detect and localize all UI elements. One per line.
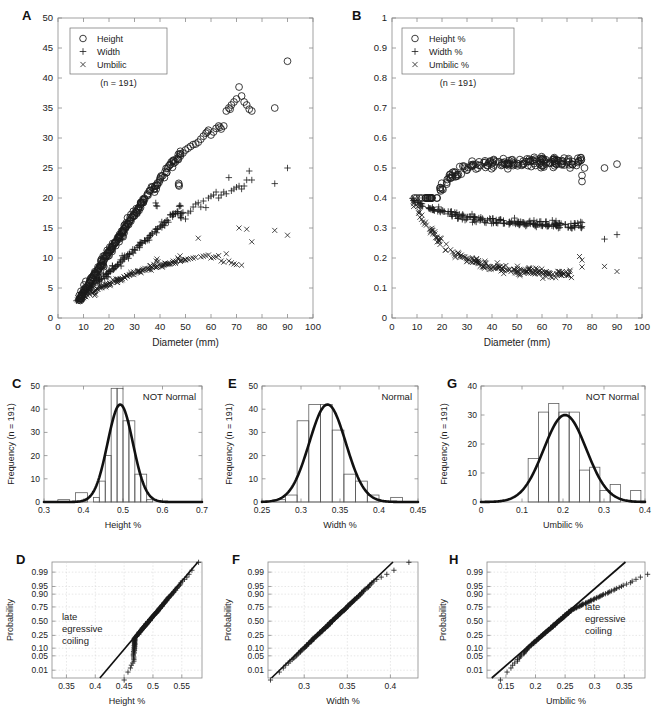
svg-text:0.01: 0.01 <box>247 665 264 675</box>
svg-text:30: 30 <box>42 132 53 143</box>
panel-f-label: F <box>232 552 240 567</box>
svg-text:0.50: 0.50 <box>466 616 483 626</box>
panel-g-label: G <box>447 376 457 391</box>
svg-text:40: 40 <box>42 72 53 83</box>
svg-text:0.2: 0.2 <box>530 681 542 691</box>
svg-text:50: 50 <box>31 381 41 391</box>
svg-text:10: 10 <box>78 321 89 332</box>
svg-text:Umbilic %: Umbilic % <box>429 60 469 70</box>
svg-text:50: 50 <box>42 12 53 23</box>
svg-text:0.2: 0.2 <box>374 252 387 263</box>
svg-text:25: 25 <box>42 162 53 173</box>
svg-text:20: 20 <box>468 439 478 449</box>
panel-e-label: E <box>228 376 237 391</box>
svg-text:50: 50 <box>249 381 259 391</box>
svg-text:80: 80 <box>587 321 598 332</box>
svg-text:egressive: egressive <box>62 623 103 634</box>
svg-text:Umbilic %: Umbilic % <box>543 520 583 530</box>
svg-text:100: 100 <box>305 321 321 332</box>
svgH-datapoints <box>498 572 650 683</box>
svg-text:0.3: 0.3 <box>589 681 601 691</box>
panel-h-label: H <box>449 552 458 567</box>
svg-text:coiling: coiling <box>62 635 89 646</box>
svg-text:30: 30 <box>462 321 473 332</box>
svg-text:0.95: 0.95 <box>31 581 48 591</box>
svg-text:35: 35 <box>42 102 53 113</box>
svg-text:Height %: Height % <box>109 696 146 706</box>
panel-h: H 0.010.050.100.250.500.750.900.950.990.… <box>433 548 661 722</box>
svg-text:Probability: Probability <box>223 598 233 641</box>
svg-text:90: 90 <box>282 321 293 332</box>
svg-text:0.4: 0.4 <box>78 505 90 515</box>
svg-text:0.75: 0.75 <box>247 602 264 612</box>
panel-e: E 0.250.30.350.40.4501020304050Width %Fr… <box>218 368 433 548</box>
svg-text:0.1: 0.1 <box>516 505 528 515</box>
svg-text:0.25: 0.25 <box>31 630 48 640</box>
svg-text:Normal: Normal <box>381 391 412 402</box>
svg-text:0.2: 0.2 <box>557 505 569 515</box>
panel-d: D 0.010.050.100.250.500.750.900.950.990.… <box>0 548 218 722</box>
panel-c: C 0.30.40.50.60.701020304050Height %Freq… <box>0 368 218 548</box>
svg-text:0.6: 0.6 <box>157 505 169 515</box>
svg-text:10: 10 <box>31 474 41 484</box>
svg-text:0.1: 0.1 <box>374 282 387 293</box>
svg-text:5: 5 <box>48 282 53 293</box>
svg-text:0.7: 0.7 <box>374 102 387 113</box>
svg-text:10: 10 <box>412 321 423 332</box>
svg-text:50: 50 <box>512 321 523 332</box>
svg-text:0: 0 <box>382 312 387 323</box>
svg-text:0.99: 0.99 <box>247 567 264 577</box>
svg-text:0: 0 <box>35 497 40 507</box>
panel-c-histogram: 0.30.40.50.60.701020304050Height %Freque… <box>0 368 218 548</box>
panel-a-plot: 0102030405060708090100051015202530354045… <box>0 0 330 368</box>
svg-text:Height %: Height % <box>105 520 142 530</box>
svg-text:0.45: 0.45 <box>410 505 427 515</box>
svgG-bars <box>528 403 641 502</box>
svg-text:0.01: 0.01 <box>31 665 48 675</box>
svg-text:Height: Height <box>97 34 124 44</box>
svg-text:0: 0 <box>479 505 484 515</box>
svgF-datapoints <box>268 560 412 683</box>
svg-text:20: 20 <box>437 321 448 332</box>
svg-text:0.5: 0.5 <box>374 162 387 173</box>
svg-text:NOT Normal: NOT Normal <box>143 391 196 402</box>
panel-a: A 01020304050607080901000510152025303540… <box>0 0 330 368</box>
svg-text:20: 20 <box>249 451 259 461</box>
svg-text:Height %: Height % <box>429 34 466 44</box>
svg-text:Umbilic %: Umbilic % <box>546 696 586 706</box>
svg-text:30: 30 <box>129 321 140 332</box>
svg-text:NOT Normal: NOT Normal <box>586 391 639 402</box>
svg-text:0.50: 0.50 <box>247 616 264 626</box>
svg-text:late: late <box>62 611 77 622</box>
svg-text:0.50: 0.50 <box>31 616 48 626</box>
panel-a-datapoints <box>73 58 291 304</box>
svg-text:0.25: 0.25 <box>247 630 264 640</box>
svg-text:egressive: egressive <box>585 613 626 624</box>
svg-text:Frequency (n = 191): Frequency (n = 191) <box>6 403 16 484</box>
svg-text:0.3: 0.3 <box>295 505 307 515</box>
panel-f-probability-plot: 0.010.050.100.250.500.750.900.950.990.30… <box>218 548 433 722</box>
svg-text:40: 40 <box>155 321 166 332</box>
svg-text:late: late <box>585 601 600 612</box>
panel-h-probability-plot: 0.010.050.100.250.500.750.900.950.990.15… <box>433 548 661 722</box>
svg-text:40: 40 <box>249 404 259 414</box>
svg-text:10: 10 <box>42 252 53 263</box>
svg-text:0.55: 0.55 <box>174 681 191 691</box>
svg-text:Frequency (n = 191): Frequency (n = 191) <box>439 403 449 484</box>
svg-text:80: 80 <box>257 321 268 332</box>
svg-text:0.6: 0.6 <box>374 132 387 143</box>
svg-text:20: 20 <box>104 321 115 332</box>
panel-g-histogram: 00.10.20.30.4010203040Umbilic %Frequency… <box>433 368 661 548</box>
panel-d-probability-plot: 0.010.050.100.250.500.750.900.950.990.35… <box>0 548 218 722</box>
svg-text:0.35: 0.35 <box>332 505 349 515</box>
svg-text:60: 60 <box>537 321 548 332</box>
svg-text:40: 40 <box>487 321 498 332</box>
svg-text:0.4: 0.4 <box>384 681 396 691</box>
svg-text:30: 30 <box>468 410 478 420</box>
svg-text:0.7: 0.7 <box>196 505 208 515</box>
svg-text:50: 50 <box>180 321 191 332</box>
svg-text:0.10: 0.10 <box>466 643 483 653</box>
svg-text:10: 10 <box>249 474 259 484</box>
svg-text:0: 0 <box>253 497 258 507</box>
svg-text:(n = 191): (n = 191) <box>100 78 136 88</box>
